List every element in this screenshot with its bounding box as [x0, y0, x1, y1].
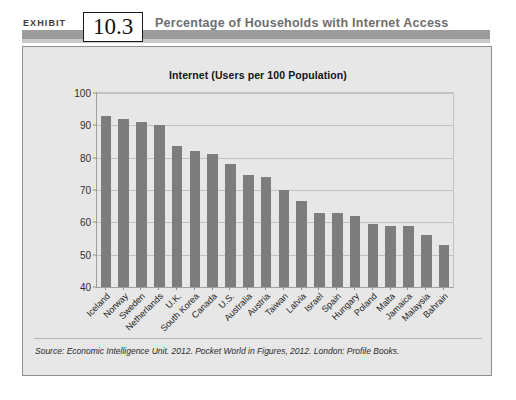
exhibit-figure: EXHIBIT 10.3 Percentage of Households wi… [0, 0, 516, 400]
exhibit-number-box: 10.3 [83, 12, 143, 42]
y-tick-label: 100 [74, 88, 91, 99]
bar-slot [346, 93, 364, 287]
bar [190, 151, 201, 287]
bar-slot [133, 93, 151, 287]
y-tick-label: 70 [80, 185, 91, 196]
bar [314, 213, 325, 287]
x-tick-mark [229, 287, 230, 290]
x-tick-mark [301, 287, 302, 290]
x-tick-mark [336, 287, 337, 290]
y-tick-label: 80 [80, 152, 91, 163]
bar [207, 154, 218, 287]
x-tick-mark [212, 287, 213, 290]
exhibit-label: EXHIBIT [23, 18, 66, 28]
bar-slot [311, 93, 329, 287]
x-tick-mark [372, 287, 373, 290]
y-tick-label: 50 [80, 249, 91, 260]
bar-series [97, 93, 453, 287]
bar [439, 245, 450, 287]
source-divider [34, 338, 482, 339]
bar [172, 146, 183, 287]
bar-slot [382, 93, 400, 287]
x-tick-mark [390, 287, 391, 290]
exhibit-title: Percentage of Households with Internet A… [155, 16, 449, 30]
source-note: Source: Economic Intelligence Unit. 2012… [35, 346, 485, 356]
bar [385, 226, 396, 287]
bar-slot [168, 93, 186, 287]
x-tick-mark [407, 287, 408, 290]
bar-slot [400, 93, 418, 287]
bar-slot [204, 93, 222, 287]
x-tick-mark [265, 287, 266, 290]
bar [243, 175, 254, 287]
bar [332, 213, 343, 287]
bar-slot [222, 93, 240, 287]
bar-slot [186, 93, 204, 287]
x-tick-mark [176, 287, 177, 290]
bar-slot [115, 93, 133, 287]
x-tick-mark [158, 287, 159, 290]
bar-slot [364, 93, 382, 287]
x-tick-mark [425, 287, 426, 290]
x-tick-mark [283, 287, 284, 290]
bar-slot [328, 93, 346, 287]
bar [136, 122, 147, 287]
source-text: Source: Economic Intelligence Unit. 2012… [35, 346, 399, 356]
y-tick-label: 60 [80, 217, 91, 228]
figure-panel: Internet (Users per 100 Population) 1009… [22, 46, 492, 376]
y-tick-label: 40 [80, 282, 91, 293]
bar [421, 235, 432, 287]
chart-title: Internet (Users per 100 Population) [23, 69, 493, 81]
bar-slot [435, 93, 453, 287]
exhibit-number: 10.3 [93, 14, 133, 39]
x-tick-mark [140, 287, 141, 290]
bar-slot [150, 93, 168, 287]
y-tick-label: 90 [80, 120, 91, 131]
x-tick-mark [105, 287, 106, 290]
bar [296, 201, 307, 287]
bar [101, 116, 112, 287]
bar-slot [293, 93, 311, 287]
exhibit-header: EXHIBIT 10.3 Percentage of Households wi… [0, 16, 516, 46]
x-tick-mark [443, 287, 444, 290]
bar-slot [239, 93, 257, 287]
x-tick-mark [194, 287, 195, 290]
plot-area: 100908070605040 [96, 92, 454, 288]
bar [261, 177, 272, 287]
bar-slot [417, 93, 435, 287]
bar [403, 226, 414, 287]
bar [350, 216, 361, 287]
bar [225, 164, 236, 287]
bar [279, 190, 290, 287]
bar-slot [275, 93, 293, 287]
x-tick-mark [318, 287, 319, 290]
bar [118, 119, 129, 287]
x-tick-mark [247, 287, 248, 290]
bar [154, 125, 165, 287]
bar-slot [97, 93, 115, 287]
bar-slot [257, 93, 275, 287]
x-tick-mark [354, 287, 355, 290]
bar [368, 224, 379, 287]
